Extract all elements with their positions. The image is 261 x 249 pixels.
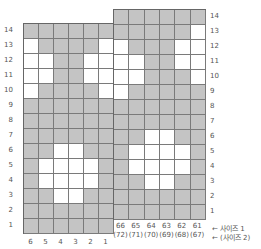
chart-cell <box>160 70 175 85</box>
chart-cell <box>175 70 190 85</box>
chart-cell <box>39 54 54 69</box>
chart-cell <box>145 190 160 205</box>
chart-cell <box>191 205 206 220</box>
column-label-size-1: 62 <box>174 223 189 230</box>
chart-cell <box>175 115 190 130</box>
chart-cell <box>129 10 144 25</box>
column-label-size-2: (71) <box>128 232 143 239</box>
chart-cell <box>54 159 69 174</box>
chart-cell <box>129 145 144 160</box>
chart-cell <box>84 219 99 234</box>
chart-cell <box>39 114 54 129</box>
chart-cell <box>54 144 69 159</box>
chart-cell <box>69 99 84 114</box>
chart-cell <box>145 70 160 85</box>
chart-cell <box>84 24 99 39</box>
row-label: 1 <box>210 208 214 215</box>
chart-cell <box>175 205 190 220</box>
row-label: 2 <box>3 207 13 214</box>
column-label: 5 <box>38 239 53 246</box>
chart-cell <box>24 39 39 54</box>
row-label: 3 <box>3 192 13 199</box>
chart-cell <box>39 219 54 234</box>
chart-cell <box>39 129 54 144</box>
chart-cell <box>39 159 54 174</box>
chart-cell <box>54 54 69 69</box>
chart-cell <box>69 39 84 54</box>
column-label-size-1: 64 <box>144 223 159 230</box>
chart-cell <box>99 69 114 84</box>
chart-cell <box>191 25 206 40</box>
chart-cell <box>160 85 175 100</box>
chart-cell <box>69 189 84 204</box>
chart-cell <box>39 204 54 219</box>
chart-cell <box>24 99 39 114</box>
chart-cell <box>191 85 206 100</box>
chart-cell <box>99 84 114 99</box>
chart-cell <box>114 100 129 115</box>
chart-cell <box>114 85 129 100</box>
chart-cell <box>24 84 39 99</box>
chart-cell <box>54 204 69 219</box>
row-label: 11 <box>3 72 13 79</box>
chart-cell <box>69 144 84 159</box>
chart-cell <box>99 204 114 219</box>
column-label-size-2: (67) <box>190 232 205 239</box>
chart-cell <box>129 130 144 145</box>
chart-cell <box>24 204 39 219</box>
chart-cell <box>129 190 144 205</box>
chart-cell <box>54 219 69 234</box>
chart-cell <box>114 160 129 175</box>
chart-cell <box>114 115 129 130</box>
chart-cell <box>84 189 99 204</box>
chart-cell <box>145 10 160 25</box>
chart-cell <box>24 129 39 144</box>
chart-cell <box>160 190 175 205</box>
chart-cell <box>191 115 206 130</box>
row-label: 9 <box>210 88 214 95</box>
row-label: 3 <box>210 178 214 185</box>
chart-cell <box>129 85 144 100</box>
row-label: 4 <box>210 163 214 170</box>
chart-cell <box>69 219 84 234</box>
chart-cell <box>69 114 84 129</box>
chart-cell <box>39 84 54 99</box>
row-label: 9 <box>3 102 13 109</box>
chart-cell <box>145 55 160 70</box>
chart-cell <box>145 40 160 55</box>
chart-left-section <box>23 23 114 234</box>
chart-cell <box>84 159 99 174</box>
chart-cell <box>39 144 54 159</box>
column-label-size-1: 63 <box>159 223 174 230</box>
chart-cell <box>145 205 160 220</box>
chart-cell <box>114 130 129 145</box>
chart-cell <box>99 24 114 39</box>
chart-cell <box>54 114 69 129</box>
row-label: 13 <box>210 28 219 35</box>
chart-cell <box>84 54 99 69</box>
chart-cell <box>145 85 160 100</box>
chart-cell <box>191 190 206 205</box>
chart-cell <box>54 99 69 114</box>
chart-cell <box>84 69 99 84</box>
row-label: 13 <box>3 42 13 49</box>
chart-cell <box>160 25 175 40</box>
row-label: 7 <box>3 132 13 139</box>
column-label: 2 <box>83 239 98 246</box>
row-label: 12 <box>3 57 13 64</box>
chart-cell <box>129 40 144 55</box>
chart-cell <box>39 174 54 189</box>
chart-cell <box>54 189 69 204</box>
chart-cell <box>54 24 69 39</box>
chart-cell <box>99 144 114 159</box>
chart-cell <box>39 69 54 84</box>
row-label: 8 <box>3 117 13 124</box>
chart-cell <box>54 129 69 144</box>
chart-cell <box>69 54 84 69</box>
chart-cell <box>160 55 175 70</box>
row-label: 14 <box>3 27 13 34</box>
chart-cell <box>160 205 175 220</box>
chart-cell <box>175 85 190 100</box>
chart-cell <box>175 160 190 175</box>
row-label: 14 <box>210 13 219 20</box>
